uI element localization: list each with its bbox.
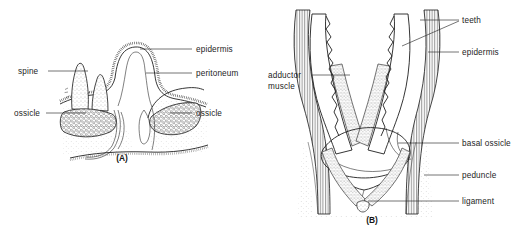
panel-a-peritoneum-line <box>118 52 152 107</box>
label-adductor-muscle-line1: adductor <box>268 71 301 80</box>
panel-b-ligament-knot <box>357 201 369 212</box>
label-spine: spine <box>18 67 39 76</box>
caption-panel-a: (A) <box>116 153 128 163</box>
label-epidermis-a: epidermis <box>196 45 233 54</box>
panel-a-drawing <box>60 43 208 160</box>
panel-b-drawing <box>294 10 440 218</box>
panel-a-spine-2 <box>92 75 108 111</box>
anatomical-figure-svg: spine ossicle epidermis peritoneum ossic… <box>0 0 532 234</box>
label-ligament: ligament <box>462 197 495 206</box>
label-teeth: teeth <box>462 16 481 25</box>
label-peduncle: peduncle <box>462 171 497 180</box>
caption-panel-b: (B) <box>366 215 378 225</box>
label-basal-ossicle: basal ossicle <box>462 139 511 148</box>
label-ossicle-left: ossicle <box>14 109 40 118</box>
label-epidermis-b: epidermis <box>462 48 499 57</box>
figure-root: spine ossicle epidermis peritoneum ossic… <box>0 0 532 234</box>
panel-a-spine-1 <box>72 63 89 110</box>
label-adductor-muscle-line2: muscle <box>268 82 295 91</box>
panel-b-ligament-sheet-right <box>364 148 410 206</box>
label-ossicle-right: ossicle <box>196 109 222 118</box>
label-peritoneum: peritoneum <box>196 69 238 78</box>
